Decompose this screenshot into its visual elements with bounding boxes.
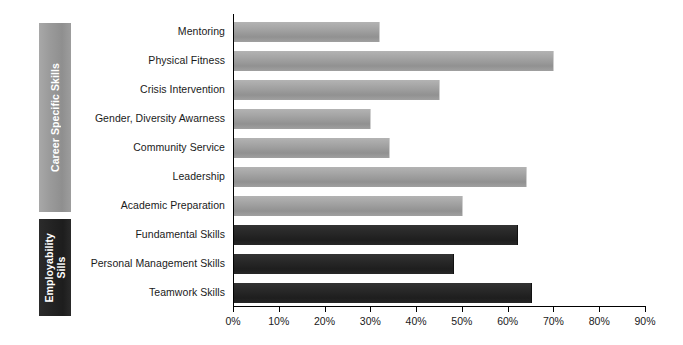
bar[interactable] <box>234 254 454 274</box>
bar[interactable] <box>234 80 440 100</box>
bar[interactable] <box>234 167 527 187</box>
bar[interactable] <box>234 109 371 129</box>
bar[interactable] <box>234 22 380 42</box>
x-axis-tick-label: 60% <box>488 315 528 327</box>
category-label: Academic Preparation <box>0 199 225 211</box>
x-axis-tick <box>553 306 554 312</box>
x-axis-tick <box>508 306 509 312</box>
x-axis-tick <box>599 306 600 312</box>
category-label: Physical Fitness <box>0 54 225 66</box>
x-axis-tick-label: 30% <box>350 315 390 327</box>
x-axis-tick-label: 20% <box>305 315 345 327</box>
category-label: Personal Management Skills <box>0 257 225 269</box>
x-axis-tick <box>370 306 371 312</box>
bar[interactable] <box>234 51 554 71</box>
category-label: Teamwork Skills <box>0 286 225 298</box>
x-axis-tick <box>416 306 417 312</box>
category-label: Leadership <box>0 170 225 182</box>
category-label: Community Service <box>0 141 225 153</box>
category-label: Mentoring <box>0 25 225 37</box>
x-axis-tick <box>279 306 280 312</box>
x-axis-line <box>233 306 645 307</box>
x-axis-tick-label: 40% <box>396 315 436 327</box>
x-axis-tick-label: 90% <box>625 315 665 327</box>
bar[interactable] <box>234 196 463 216</box>
x-axis-tick <box>645 306 646 312</box>
category-label: Gender, Diversity Awarness <box>0 112 225 124</box>
bar[interactable] <box>234 225 518 245</box>
bar[interactable] <box>234 138 390 158</box>
x-axis-tick <box>325 306 326 312</box>
x-axis-tick-label: 50% <box>442 315 482 327</box>
x-axis-tick <box>462 306 463 312</box>
category-label: Crisis Intervention <box>0 83 225 95</box>
bar-chart: Career Specific Skills Employability Sil… <box>0 0 683 345</box>
category-label: Fundamental Skills <box>0 228 225 240</box>
x-axis-tick-label: 0% <box>213 315 253 327</box>
x-axis-tick-label: 80% <box>579 315 619 327</box>
x-axis-tick-label: 70% <box>533 315 573 327</box>
bar[interactable] <box>234 283 532 303</box>
x-axis-tick-label: 10% <box>259 315 299 327</box>
x-axis-tick <box>233 306 234 312</box>
plot-area <box>233 14 645 306</box>
